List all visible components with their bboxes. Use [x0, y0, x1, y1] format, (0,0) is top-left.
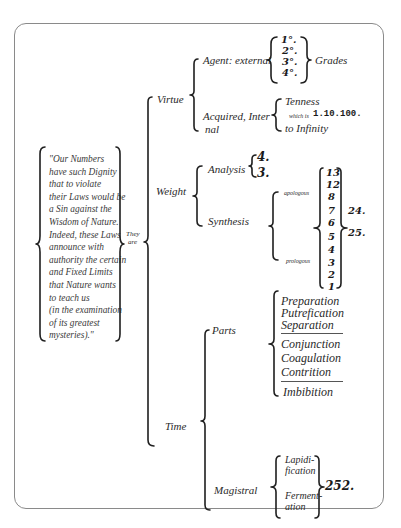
tenness-label: Tenness: [285, 96, 319, 107]
grades-right-brace-icon: [300, 36, 312, 84]
acquired-internal-label-cont: nal: [205, 124, 219, 135]
quote-line: to teach us: [49, 292, 124, 305]
quote-line: "Our Numbers: [49, 153, 124, 166]
parts-divider: [281, 381, 343, 382]
fermentation-line2: ation: [285, 502, 306, 512]
quote-line: Indeed, these Laws: [49, 229, 124, 242]
which-is-label: which is: [289, 113, 309, 119]
analysis-label: Analysis: [208, 164, 245, 175]
virtue-brace-icon: [189, 58, 201, 132]
quote-line: a Sin against the: [49, 203, 124, 216]
part-contrition: Contrition: [281, 366, 331, 378]
number-6: 6: [328, 218, 335, 228]
quote-line: announce with: [49, 241, 124, 254]
quote-line: that Nature wants: [49, 279, 124, 292]
sum-24: 24.: [348, 206, 365, 216]
parts-brace-icon: [268, 290, 280, 398]
number-7: 7: [328, 206, 335, 216]
analysis-value-4: 4.: [257, 151, 270, 163]
quote-text: "Our Numbers have such Dignity that to v…: [49, 153, 124, 342]
acquired-internal-label: Acquired, Inter: [203, 111, 270, 122]
weight-brace-icon: [192, 165, 204, 227]
connector-they: They: [126, 231, 140, 238]
quote-left-brace-icon: [36, 146, 48, 342]
weight-label: Weight: [156, 186, 186, 197]
parts-label: Parts: [212, 325, 236, 336]
quote-line: of its greatest: [49, 317, 124, 330]
parts-divider: [281, 333, 343, 334]
grade-2: 2°.: [282, 46, 297, 56]
analysis-brace-icon: [249, 154, 257, 178]
quote-line: that to violate: [49, 178, 124, 191]
quote-line: and Fixed Limits: [49, 266, 124, 279]
magistral-left-brace-icon: [270, 455, 282, 519]
lapidification-line2: fication: [285, 466, 316, 476]
analysis-value-3: 3.: [257, 167, 270, 179]
quote-right-brace-icon: [115, 146, 125, 342]
magistral-total-252: 252.: [325, 480, 354, 492]
part-coagulation: Coagulation: [281, 352, 341, 364]
grade-3: 3°.: [282, 57, 297, 67]
time-brace-icon: [200, 329, 212, 513]
synthesis-brace-icon: [268, 191, 280, 261]
to-infinity-label: to Infinity: [285, 123, 328, 134]
prologous-label: prologous: [286, 258, 310, 264]
main-category-brace-icon: [144, 96, 156, 448]
number-3: 3: [328, 258, 335, 268]
grade-4: 4°.: [282, 68, 297, 78]
virtue-label: Virtue: [157, 94, 184, 105]
synthesis-label: Synthesis: [208, 216, 249, 227]
quote-line: mysteries).": [49, 329, 124, 342]
numbers-left-brace-icon: [313, 167, 325, 289]
grades-label: Grades: [315, 55, 347, 66]
quote-line: authority the certain: [49, 254, 124, 267]
grade-1: 1°.: [281, 35, 296, 45]
apologous-label: apologous: [284, 190, 309, 196]
quote-line: their Laws would be: [49, 191, 124, 204]
number-4: 4: [328, 245, 335, 255]
lapidification-line1: Lapidi-: [285, 455, 314, 465]
number-2: 2: [328, 270, 335, 280]
part-conjunction: Conjunction: [281, 338, 340, 350]
time-label: Time: [165, 421, 186, 432]
sum-25: 25.: [348, 228, 365, 238]
quote-line: Wisdom of Nature.: [49, 216, 124, 229]
acquired-brace-icon: [272, 98, 284, 132]
part-separation: Separation: [281, 319, 334, 331]
number-5: 5: [328, 232, 335, 242]
quote-line: have such Dignity: [49, 166, 124, 179]
quote-line: (in the examination: [49, 304, 124, 317]
agent-external-label: Agent: external: [203, 55, 271, 66]
decimal-sequence: 1.10.100.: [313, 110, 362, 119]
numbers-right-brace-icon: [336, 167, 348, 289]
magistral-label: Magistral: [214, 485, 257, 496]
connector-are: are: [128, 239, 137, 246]
part-imbibition: Imbibition: [283, 386, 333, 398]
number-1: 1: [328, 282, 335, 292]
grades-left-brace-icon: [267, 36, 279, 84]
number-8: 8: [328, 192, 335, 202]
